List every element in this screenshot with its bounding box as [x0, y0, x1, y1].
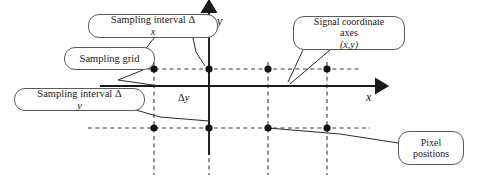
delta-y-label: Δy	[178, 92, 189, 103]
leader-signal-axes-1	[288, 50, 303, 82]
callout-signal-coordinate-axes-line-2: axes (x,y)	[314, 27, 384, 49]
callout-pixel-positions[interactable]: Pixel positions	[398, 131, 464, 165]
callout-signal-coordinate-axes-line-1: Signal coordinate	[314, 16, 384, 27]
callout-sampling-interval-dx-line-1: Sampling interval Δx	[111, 14, 195, 38]
callout-sampling-grid[interactable]: Sampling grid	[64, 47, 155, 70]
pixel-dot-2	[264, 65, 271, 72]
pixel-dot-5	[205, 124, 212, 131]
pixel-dot-4	[150, 124, 157, 131]
leader-lines	[118, 38, 398, 143]
callout-signal-coordinate-axes[interactable]: Signal coordinate axes (x,y)	[293, 16, 405, 50]
x-axis-label: x	[366, 90, 371, 105]
callout-sampling-interval-dy[interactable]: Sampling interval Δy	[14, 88, 145, 111]
callout-sampling-interval-dx[interactable]: Sampling interval Δx	[88, 14, 218, 38]
figure-sampling-grid: Sampling interval Δx Sampling grid Sampl…	[0, 0, 478, 185]
sampling-grid-lines	[88, 62, 370, 175]
leader-signal-axes-2	[290, 50, 330, 84]
callout-sampling-interval-dy-line-1: Sampling interval Δy	[37, 88, 121, 112]
leader-pixel-positions	[268, 128, 398, 143]
pixel-dot-3	[323, 65, 330, 72]
leader-sampling-interval-dy	[136, 110, 209, 121]
pixel-dot-1	[205, 65, 212, 72]
pixel-dot-7	[323, 124, 330, 131]
leader-sampling-interval-dx	[193, 38, 205, 66]
callout-pixel-positions-line-2: positions	[413, 148, 449, 159]
callout-sampling-grid-line-1: Sampling grid	[80, 53, 140, 65]
pixel-dot-6	[264, 124, 271, 131]
callout-pixel-positions-line-1: Pixel	[413, 137, 449, 148]
